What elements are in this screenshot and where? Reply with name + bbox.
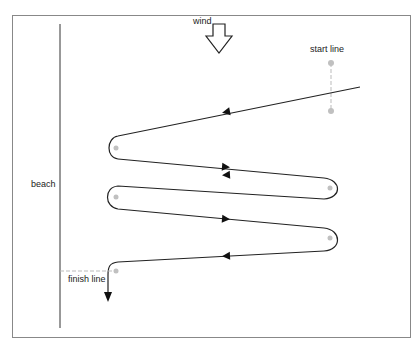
course-path <box>108 87 361 299</box>
mark <box>114 146 119 151</box>
direction-arrow-icon <box>222 171 231 180</box>
start-line-label: start line <box>310 44 344 54</box>
start-mark-bottom <box>328 108 334 114</box>
wind-label: wind <box>192 16 212 26</box>
finish-arrow-icon <box>104 292 112 302</box>
diagram-frame <box>13 16 411 338</box>
beach-label: beach <box>31 179 56 189</box>
mark <box>328 236 333 241</box>
mark <box>328 186 333 191</box>
finish-line-label: finish line <box>68 274 106 284</box>
wind-arrow-icon <box>206 24 232 53</box>
mark <box>114 269 119 274</box>
mark <box>114 195 119 200</box>
direction-arrow-icon <box>222 215 231 224</box>
start-mark-top <box>328 60 334 66</box>
course-diagram: beach wind start line finish line <box>0 0 417 349</box>
direction-arrow-icon <box>222 163 231 172</box>
direction-arrow-icon <box>222 252 230 260</box>
